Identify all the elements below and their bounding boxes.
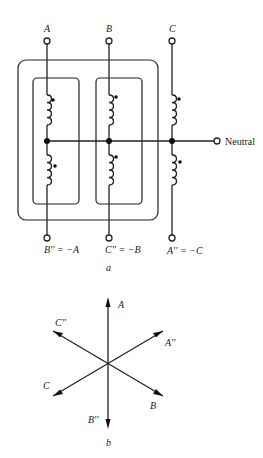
junction-dot [169,138,175,144]
junction-dot [44,138,50,144]
phasor-diagram: A A'' B B'' C C'' [43,297,176,429]
phasor-label-c-double-prime: C'' [55,317,67,328]
polarity-dot [177,97,181,101]
phasor-label-c: C [43,380,50,391]
terminal-b-double-prime [44,235,50,241]
caption-b: b [106,437,111,448]
coil-b-lower [109,155,114,185]
label-a: A [43,23,51,34]
coil-b-upper [109,95,114,125]
terminal-a-double-prime [169,235,175,241]
polarity-dot [114,155,118,159]
terminal-a [44,38,50,44]
label-b-double-prime: B'' = −A [44,244,80,255]
arrow-b [153,389,163,396]
coil-a-upper [47,95,52,125]
polarity-dot [51,98,55,102]
polarity-dot [178,160,182,164]
coil-c-upper [172,95,177,125]
coil-a-lower [47,155,52,185]
terminal-c [169,38,175,44]
caption-a: a [106,262,111,273]
phasor-label-a-double-prime: A'' [164,337,176,348]
terminal-c-double-prime [106,235,112,241]
transformer-diagram: Neutral A B C B'' = −A C'' = −B A'' = −C… [0,0,263,458]
phasor-label-b-double-prime: B'' [88,414,99,425]
junction-dot [106,138,112,144]
label-b: B [106,23,112,34]
neutral-label: Neutral [225,136,255,147]
phasor-label-b: B [150,400,156,411]
terminal-b [106,38,112,44]
polarity-dot [114,95,118,99]
label-a-double-prime: A'' = −C [166,245,203,256]
phasor-label-a: A [117,299,125,310]
arrow-a [106,297,111,307]
label-c: C [169,23,176,34]
label-c-double-prime: C'' = −B [105,244,141,255]
polarity-dot [53,164,57,168]
transformer-core [18,60,158,220]
arrow-b-double-prime [106,419,111,429]
coil-c-lower [172,155,177,185]
outer-core [18,60,158,220]
neutral-terminal [214,138,220,144]
